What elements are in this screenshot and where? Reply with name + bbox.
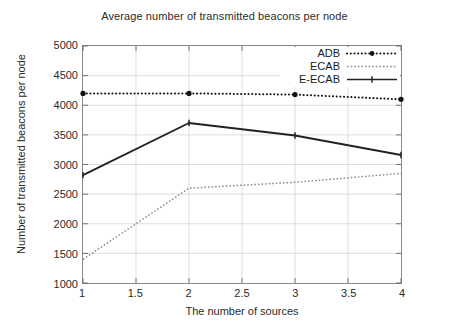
legend-item-label: ECAB [310,60,340,72]
y-tick-label: 4500 [38,69,78,81]
y-tick-label: 1500 [38,248,78,260]
legend-item-label: ADB [317,47,340,59]
y-tick-label: 3500 [38,129,78,141]
legend-item-e-ecab[interactable]: E-ECAB [299,73,398,85]
legend-swatch-dash-dot [346,48,398,59]
x-axis-title: The number of sources [82,305,402,317]
chart-title: Average number of transmitted beacons pe… [0,10,449,22]
x-tick-label: 1.5 [128,287,143,299]
data-point-marker [398,97,403,102]
y-tick-label: 5000 [38,39,78,51]
y-axis-title: Number of transmitted beacons per node [15,29,27,279]
x-axis-tick-labels: 11.522.533.54 [82,287,402,307]
legend-swatch-dotted [346,61,398,72]
chart-container: Average number of transmitted beacons pe… [0,0,449,328]
data-point-marker [80,91,85,96]
y-tick-label: 1000 [38,278,78,290]
legend-item-ecab[interactable]: ECAB [310,60,398,72]
y-tick-label: 2000 [38,218,78,230]
x-tick-label: 1 [79,287,85,299]
legend-item-label: E-ECAB [299,73,340,85]
y-tick-label: 4000 [38,99,78,111]
x-tick-label: 2 [186,287,192,299]
data-point-marker [186,91,191,96]
legend-item-adb[interactable]: ADB [317,47,398,59]
x-tick-label: 4 [399,287,405,299]
x-tick-label: 2.5 [234,287,249,299]
y-tick-label: 3000 [38,159,78,171]
y-axis-tick-labels: 100015002000250030003500400045005000 [34,45,78,284]
x-tick-label: 3.5 [341,287,356,299]
y-tick-label: 2500 [38,188,78,200]
chart-legend: ADBECABE-ECAB [280,47,400,87]
data-point-marker [292,92,297,97]
x-tick-label: 3 [292,287,298,299]
legend-swatch-solid [346,74,398,85]
